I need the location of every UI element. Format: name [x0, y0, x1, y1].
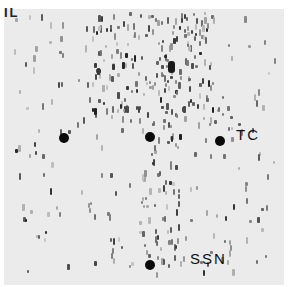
- spot: [25, 219, 27, 222]
- spot: [106, 28, 108, 32]
- spot: [172, 31, 174, 35]
- spot: [206, 98, 209, 102]
- spot: [246, 237, 248, 244]
- spot: [92, 82, 94, 87]
- spot: [180, 261, 182, 267]
- spot: [43, 173, 45, 177]
- spot: [163, 259, 165, 265]
- spot: [161, 72, 163, 75]
- spot: [87, 82, 89, 88]
- spot: [228, 44, 230, 47]
- spot: [175, 165, 178, 170]
- spot: [158, 42, 160, 45]
- spot: [19, 173, 21, 180]
- spot: [102, 85, 105, 92]
- spot: [144, 170, 147, 177]
- spot: [210, 154, 212, 159]
- spot: [159, 171, 161, 176]
- spot: [154, 150, 157, 154]
- spot: [101, 145, 103, 151]
- reference-marker-tc: [215, 136, 225, 146]
- spot: [199, 52, 202, 55]
- spot: [165, 111, 168, 114]
- spot: [261, 208, 264, 211]
- spot: [189, 86, 191, 92]
- spot: [113, 258, 115, 264]
- spot: [44, 238, 46, 242]
- spot: [161, 45, 163, 52]
- spot: [213, 233, 215, 239]
- spot: [210, 85, 212, 91]
- spot: [122, 62, 125, 69]
- spot: [171, 136, 173, 142]
- spot: [117, 109, 119, 113]
- spot: [199, 29, 201, 36]
- spot: [92, 36, 94, 42]
- spot: [161, 106, 164, 109]
- spot: [27, 270, 29, 273]
- spot: [96, 134, 98, 140]
- spot: [167, 80, 169, 83]
- spot: [131, 58, 133, 61]
- reference-marker-center: [145, 132, 155, 142]
- spot: [99, 76, 101, 79]
- spot: [145, 76, 147, 81]
- spot: [85, 45, 87, 52]
- spot: [195, 65, 198, 68]
- spot: [163, 119, 166, 123]
- label-tc: TC: [236, 126, 260, 143]
- spot: [141, 56, 143, 60]
- spot: [68, 130, 71, 134]
- spot: [246, 198, 248, 204]
- spot: [151, 153, 153, 156]
- spot: [113, 238, 115, 245]
- spot: [51, 99, 53, 105]
- spot: [42, 154, 45, 159]
- spot: [214, 120, 217, 124]
- spot: [149, 188, 152, 195]
- spot: [143, 176, 146, 182]
- spot: [191, 63, 194, 69]
- spot: [148, 217, 151, 224]
- spot: [29, 154, 31, 158]
- spot: [129, 12, 132, 16]
- spot: [98, 99, 101, 103]
- spot: [154, 204, 156, 207]
- spot: [191, 30, 193, 34]
- spot: [164, 216, 166, 222]
- label-ssn: SSN: [190, 250, 227, 267]
- spot: [166, 103, 169, 110]
- spot: [232, 269, 235, 276]
- spot: [49, 41, 52, 44]
- spot: [121, 128, 124, 133]
- spot: [173, 95, 176, 98]
- spot: [103, 59, 105, 62]
- spot: [184, 29, 186, 33]
- spot: [140, 14, 142, 18]
- spot: [178, 194, 180, 199]
- spot: [179, 69, 182, 75]
- spot: [109, 214, 111, 221]
- spot: [90, 202, 92, 205]
- spot: [231, 137, 234, 142]
- spot: [110, 173, 113, 178]
- spot: [33, 55, 36, 62]
- spot: [200, 83, 202, 87]
- spot: [173, 25, 175, 29]
- spot: [114, 33, 116, 40]
- spot: [261, 228, 264, 232]
- spot: [19, 90, 21, 94]
- spot: [213, 17, 215, 24]
- spot: [86, 26, 88, 32]
- spot: [94, 108, 97, 115]
- spot: [245, 186, 247, 192]
- spot: [204, 59, 206, 66]
- spot: [121, 246, 123, 249]
- spot: [192, 102, 195, 106]
- spot: [156, 272, 158, 278]
- spot: [190, 187, 192, 192]
- spot: [83, 117, 85, 124]
- spot: [56, 206, 58, 210]
- spot: [175, 245, 177, 249]
- spot: [25, 62, 27, 67]
